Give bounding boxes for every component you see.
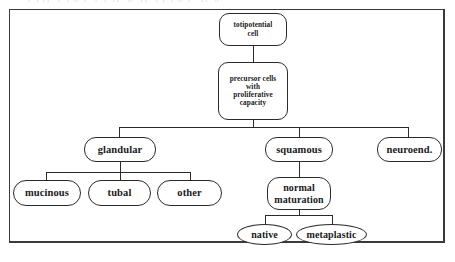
- node-mucinous[interactable]: mucinous: [13, 180, 81, 206]
- node-neuroendocrine[interactable]: neuroend.: [377, 137, 442, 162]
- node-native[interactable]: native: [237, 224, 292, 245]
- node-other-label: other: [177, 187, 201, 199]
- figure-canvas: pqqp j pg p j pqp g qp jq pg p qj g: [0, 0, 455, 262]
- node-glandular-label: glandular: [98, 144, 143, 156]
- node-squamous-label: squamous: [276, 144, 322, 156]
- node-metaplastic-label: metaplastic: [307, 229, 357, 240]
- node-mucinous-label: mucinous: [25, 187, 69, 199]
- node-precursor-cells-line1: precursor cells: [230, 75, 277, 83]
- node-squamous[interactable]: squamous: [265, 137, 333, 162]
- node-tubal[interactable]: tubal: [88, 180, 151, 206]
- node-precursor-cells[interactable]: precursor cells with proliferative capac…: [218, 62, 288, 120]
- caption-remnant: pqqp j pg p j pqp g qp jq pg p qj g: [0, 0, 455, 7]
- node-neuroendocrine-label: neuroend.: [387, 144, 433, 156]
- node-precursor-cells-line4: capacity: [230, 99, 277, 107]
- node-normal-maturation-line2: maturation: [274, 194, 323, 205]
- node-tubal-label: tubal: [108, 187, 132, 199]
- node-precursor-cells-line2: with: [230, 83, 277, 91]
- node-other[interactable]: other: [157, 180, 222, 206]
- node-glandular[interactable]: glandular: [84, 137, 156, 162]
- node-normal-maturation-line1: normal: [274, 182, 323, 193]
- node-metaplastic[interactable]: metaplastic: [296, 224, 367, 245]
- node-totipotential-cell-line2: cell: [234, 30, 273, 38]
- node-totipotential-cell-line1: totipotential: [234, 21, 273, 29]
- node-normal-maturation[interactable]: normal maturation: [267, 177, 331, 210]
- caption-remnant-text: pqqp j pg p j pqp g qp jq pg p qj g: [0, 0, 221, 2]
- node-totipotential-cell[interactable]: totipotential cell: [219, 13, 287, 46]
- node-native-label: native: [251, 229, 278, 240]
- node-precursor-cells-line3: proliferative: [230, 91, 277, 99]
